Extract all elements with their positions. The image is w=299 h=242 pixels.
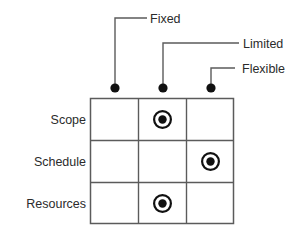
- row-labels: Scope Schedule Resources: [26, 113, 86, 211]
- leader-line-fixed: [115, 18, 147, 88]
- matrix-canvas: Fixed Limited Flexible Scope Schedule Re…: [0, 0, 299, 242]
- callout-dot-limited: [158, 83, 167, 92]
- callout-dot-fixed: [110, 83, 119, 92]
- cell-marker-scope-limited[interactable]: [154, 111, 171, 128]
- target-dot-icon-core: [158, 115, 166, 123]
- callout-flexible: Flexible: [206, 62, 285, 93]
- row-label-schedule: Schedule: [34, 155, 86, 169]
- column-label-limited: Limited: [243, 37, 283, 51]
- cell-marker-schedule-flexible[interactable]: [202, 153, 219, 170]
- column-label-fixed: Fixed: [150, 12, 181, 26]
- row-label-resources: Resources: [26, 197, 86, 211]
- leader-line-limited: [163, 43, 239, 88]
- leader-line-flexible: [211, 68, 235, 88]
- constraint-matrix-diagram: Fixed Limited Flexible Scope Schedule Re…: [0, 0, 299, 242]
- column-label-flexible: Flexible: [242, 62, 285, 76]
- callout-dot-flexible: [206, 83, 215, 92]
- target-dot-icon-core: [158, 199, 166, 207]
- cell-marker-resources-limited[interactable]: [154, 195, 171, 212]
- row-label-scope: Scope: [51, 113, 86, 127]
- callout-fixed: Fixed: [110, 12, 180, 93]
- target-dot-icon-core: [206, 157, 214, 165]
